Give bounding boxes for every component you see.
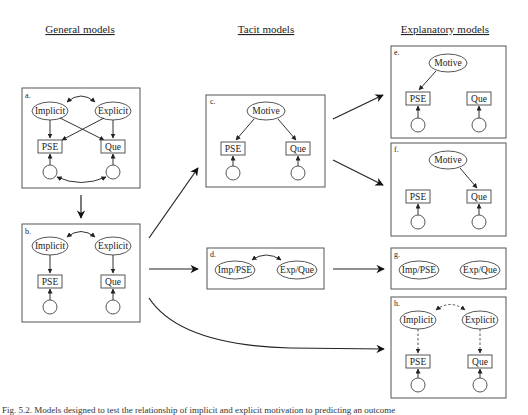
imp-pse-label: Imp/PSE	[218, 265, 253, 275]
que-label: Que	[471, 94, 487, 104]
panel-d-label: d.	[210, 250, 216, 259]
explicit-label: Explicit	[98, 241, 128, 251]
que-label: Que	[105, 142, 121, 152]
figure-caption: Fig. 5.2. Models designed to test the re…	[2, 405, 395, 415]
panel-c: c. Motive PSE Que	[206, 95, 325, 187]
pse-label: PSE	[42, 277, 59, 287]
panel-g-label: g.	[394, 250, 400, 259]
implicit-label: Implicit	[35, 106, 65, 116]
arrow-c-to-e	[333, 95, 383, 119]
panel-g: g. Imp/PSE Exp/Que	[391, 248, 506, 289]
motive-label: Motive	[252, 106, 279, 116]
heading-tacit-models: Tacit models	[238, 23, 294, 35]
arrow-b-to-c	[149, 168, 198, 238]
que-label: Que	[472, 357, 488, 367]
panel-b: b. Implicit Explicit PSE Que	[22, 224, 140, 322]
exp-que-label: Exp/Que	[463, 265, 497, 275]
heading-explanatory-models: Explanatory models	[401, 23, 489, 35]
panel-b-label: b.	[25, 227, 31, 236]
panel-f: f. Motive PSE Que	[391, 143, 506, 236]
panel-h: h. Implicit Explicit PSE Que	[391, 297, 506, 398]
pse-label: PSE	[410, 94, 427, 104]
que-label: Que	[471, 192, 487, 202]
explicit-label: Explicit	[465, 315, 495, 325]
que-label: Que	[105, 277, 121, 287]
panel-e: e. Motive PSE Que	[391, 46, 506, 138]
implicit-label: Implicit	[35, 241, 65, 251]
panel-e-label: e.	[394, 48, 400, 57]
panel-h-label: h.	[394, 299, 400, 308]
error-node	[43, 165, 57, 179]
motive-label: Motive	[434, 155, 461, 165]
panel-f-label: f.	[394, 145, 399, 154]
motive-label: Motive	[434, 58, 461, 68]
arrow-c-to-f	[333, 160, 383, 185]
panel-d: d. Imp/PSE Exp/Que	[207, 248, 324, 289]
heading-general-models: General models	[45, 23, 114, 35]
pse-label: PSE	[225, 144, 242, 154]
panel-a: a. Implicit Explicit PSE Que	[22, 88, 140, 188]
pse-label: PSE	[410, 192, 427, 202]
exp-que-label: Exp/Que	[280, 265, 314, 275]
imp-pse-label: Imp/PSE	[402, 265, 437, 275]
explicit-label: Explicit	[98, 106, 128, 116]
pse-label: PSE	[42, 142, 59, 152]
pse-label: PSE	[410, 357, 427, 367]
implicit-label: Implicit	[403, 315, 433, 325]
panel-a-label: a.	[25, 91, 31, 100]
error-node	[106, 165, 120, 179]
panel-c-label: c.	[210, 97, 216, 106]
que-label: Que	[290, 144, 306, 154]
arrow-b-to-h	[149, 298, 384, 349]
